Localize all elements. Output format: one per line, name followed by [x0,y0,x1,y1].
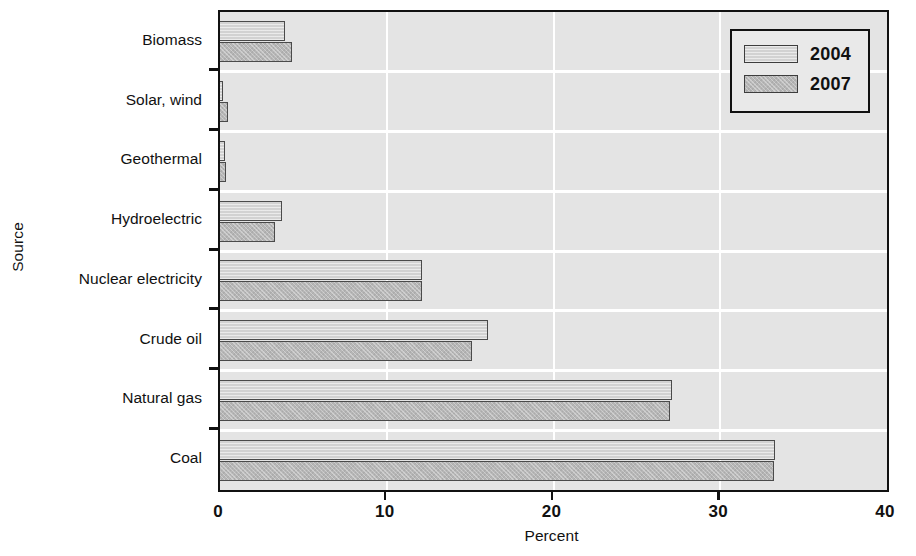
gridline-horizontal [220,130,887,133]
bar-biomass-2004 [220,21,285,41]
bar-natural-gas-2007 [220,401,670,421]
x-tick-label-40: 40 [855,502,915,522]
bar-geothermal-2007 [220,162,226,182]
bar-hydroelectric-2004 [220,201,282,221]
legend-label-2004: 2004 [810,41,851,67]
bar-coal-2007 [220,461,774,481]
y-tick-label-biomass: Biomass [12,32,202,48]
gridline-horizontal [220,190,887,193]
y-tick-label-natural-gas: Natural gas [12,390,202,406]
x-tick-mark-20 [551,490,554,500]
bar-geothermal-2004 [220,141,225,161]
bar-coal-2004 [220,440,775,460]
legend-item-2004: 2004 [744,41,862,67]
gridline-horizontal [220,250,887,253]
x-tick-mark-30 [717,490,720,500]
legend-swatch-2007 [744,75,798,93]
y-tick-label-solar-wind: Solar, wind [12,92,202,108]
bar-solar-wind-2007 [220,102,228,122]
x-tick-label-0: 0 [188,502,248,522]
legend-label-2007: 2007 [810,71,851,97]
legend-item-2007: 2007 [744,71,862,97]
x-axis-title: Percent [218,527,885,545]
x-tick-label-20: 20 [522,502,582,522]
x-tick-label-30: 30 [688,502,748,522]
bar-biomass-2007 [220,42,292,62]
gridline-horizontal [220,309,887,312]
legend-swatch-2004 [744,45,798,63]
chart-legend: 20042007 [730,29,870,113]
y-tick-label-crude-oil: Crude oil [12,331,202,347]
gridline-horizontal [220,429,887,432]
x-tick-mark-10 [384,490,387,500]
bar-chart-figure: Source BiomassSolar, windGeothermalHydro… [0,0,916,556]
y-axis-tick-labels: BiomassSolar, windGeothermalHydroelectri… [20,10,210,488]
y-tick-label-nuclear-electricity: Nuclear electricity [12,271,202,287]
gridline-horizontal [220,369,887,372]
y-tick-label-geothermal: Geothermal [12,151,202,167]
bar-crude-oil-2004 [220,320,488,340]
bar-nuclear-electricity-2004 [220,260,422,280]
x-tick-label-10: 10 [355,502,415,522]
y-tick-label-coal: Coal [12,450,202,466]
bar-hydroelectric-2007 [220,222,275,242]
bar-natural-gas-2004 [220,380,672,400]
bar-nuclear-electricity-2007 [220,281,422,301]
y-tick-label-hydroelectric: Hydroelectric [12,211,202,227]
bar-crude-oil-2007 [220,341,472,361]
bar-solar-wind-2004 [220,81,223,101]
